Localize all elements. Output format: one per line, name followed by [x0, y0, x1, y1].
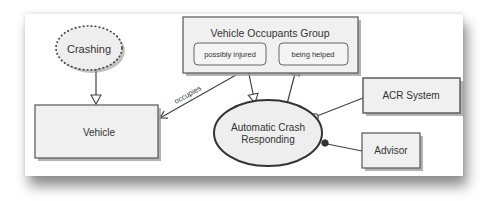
node-crashing-label: Crashing [67, 43, 111, 55]
edge-occupies[interactable]: occupies [160, 75, 236, 118]
node-acr-system-label: ACR System [382, 90, 439, 101]
node-acr-system[interactable]: ACR System [363, 78, 463, 116]
node-advisor-label: Advisor [374, 145, 408, 156]
state-being-helped[interactable]: being helped [279, 43, 348, 65]
agent-link-icon [322, 140, 328, 146]
node-acr-label-line1: Automatic Crash [231, 122, 305, 133]
state-possibly-injured[interactable]: possibly injured [194, 43, 266, 65]
state-possibly-injured-label: possibly injured [204, 50, 256, 59]
node-vehicle[interactable]: Vehicle [35, 105, 161, 161]
edge-acr-system-instrument[interactable] [312, 98, 363, 120]
state-being-helped-label: being helped [292, 50, 335, 59]
node-acr-label-line2: Responding [241, 134, 294, 145]
node-occupants-group[interactable]: Vehicle Occupants Group possibly injured… [183, 17, 361, 76]
diagram-svg: occupies Crashing [0, 0, 489, 201]
node-occupants-group-label: Vehicle Occupants Group [210, 27, 329, 39]
edge-advisor-agent[interactable] [322, 140, 362, 151]
node-vehicle-label: Vehicle [83, 127, 116, 138]
node-crashing[interactable]: Crashing [56, 26, 125, 73]
node-advisor[interactable]: Advisor [362, 133, 423, 171]
diagram-canvas: occupies Crashing [0, 0, 489, 201]
node-automatic-crash-responding[interactable]: Automatic Crash Responding [214, 100, 322, 166]
